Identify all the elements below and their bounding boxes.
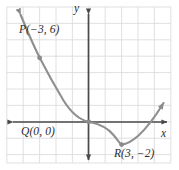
- y-axis-label: y: [74, 3, 79, 15]
- point-label-r: R(3, −2): [114, 148, 155, 160]
- point-label-q: Q(0, 0): [21, 126, 55, 138]
- point-marker-q: [86, 119, 91, 124]
- parabola-figure: P(−3, 6) Q(0, 0) R(3, −2) y x: [0, 0, 179, 170]
- point-label-p: P(−3, 6): [19, 24, 60, 36]
- x-axis-label: x: [161, 128, 166, 140]
- point-marker-p: [37, 55, 42, 60]
